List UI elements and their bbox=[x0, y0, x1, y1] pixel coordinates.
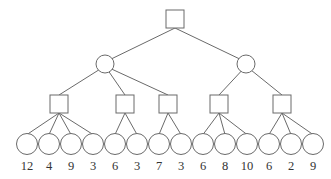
leaf-value-label: 3 bbox=[178, 159, 184, 173]
chance-node-1 bbox=[96, 55, 114, 73]
leaf-node bbox=[259, 134, 280, 155]
leaf-node bbox=[17, 134, 38, 155]
leaf-node bbox=[215, 134, 236, 155]
tree-edge bbox=[125, 113, 137, 135]
tree-edge bbox=[59, 113, 93, 135]
tree-edge bbox=[115, 113, 125, 135]
leaf-value-label: 12 bbox=[21, 159, 34, 173]
tree-edge bbox=[168, 113, 181, 135]
max-node-4 bbox=[210, 95, 228, 113]
leaf-node bbox=[237, 134, 258, 155]
tree-edge bbox=[269, 113, 282, 135]
tree-edges bbox=[27, 28, 313, 135]
max-node-5 bbox=[273, 95, 291, 113]
leaf-node bbox=[149, 134, 170, 155]
max-node-1 bbox=[50, 95, 68, 113]
leaf-value-label: 6 bbox=[266, 159, 272, 173]
leaf-value-label: 7 bbox=[156, 159, 162, 173]
tree-edge bbox=[219, 113, 247, 135]
leaf-node bbox=[303, 134, 324, 155]
tree-edge bbox=[175, 28, 246, 62]
tree-edge bbox=[219, 113, 225, 135]
leaf-node bbox=[105, 134, 126, 155]
leaf-node bbox=[127, 134, 148, 155]
leaf-value-label: 10 bbox=[241, 159, 254, 173]
leaf-value-label: 3 bbox=[90, 159, 96, 173]
tree-edge bbox=[159, 113, 168, 135]
leaf-node bbox=[83, 134, 104, 155]
game-tree-diagram: 1249363736810629 bbox=[0, 0, 331, 179]
max-node-2 bbox=[116, 95, 134, 113]
chance-node-2 bbox=[237, 55, 255, 73]
leaf-value-label: 2 bbox=[288, 159, 294, 173]
max-node-3 bbox=[159, 95, 177, 113]
leaf-value-label: 9 bbox=[68, 159, 74, 173]
tree-nodes bbox=[17, 10, 324, 155]
tree-edge bbox=[203, 113, 219, 135]
leaf-node bbox=[171, 134, 192, 155]
leaf-value-label: 3 bbox=[134, 159, 140, 173]
leaf-node bbox=[39, 134, 60, 155]
leaf-node bbox=[281, 134, 302, 155]
leaf-value-label: 4 bbox=[46, 159, 53, 173]
leaf-value-label: 9 bbox=[310, 159, 316, 173]
leaf-node bbox=[61, 134, 82, 155]
leaf-node bbox=[193, 134, 214, 155]
leaf-labels: 1249363736810629 bbox=[21, 159, 316, 173]
leaf-value-label: 6 bbox=[200, 159, 206, 173]
leaf-value-label: 6 bbox=[112, 159, 118, 173]
tree-edge bbox=[105, 28, 175, 62]
root-max-node bbox=[166, 10, 184, 28]
leaf-value-label: 8 bbox=[222, 159, 228, 173]
